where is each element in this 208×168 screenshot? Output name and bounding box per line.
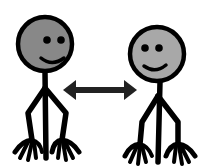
hand-icon [52, 140, 79, 160]
hand-icon [125, 144, 152, 164]
head-right [130, 27, 184, 81]
eye-icon [155, 44, 163, 52]
arm-left-outer [28, 88, 45, 140]
eye-icon [57, 36, 65, 44]
eye-icon [141, 44, 149, 52]
double-arrow-icon: interaction [63, 80, 137, 100]
arm-right-inner [140, 96, 158, 144]
pictogram: Two smiling stick figures facing each ot… [0, 0, 208, 168]
head-left [18, 17, 72, 71]
eye-icon [43, 36, 51, 44]
hand-icon [166, 144, 195, 164]
hand-icon [15, 140, 42, 160]
pictogram-canvas: Person 1 [0, 0, 208, 168]
body-left [45, 72, 46, 158]
person-right: Person 2 [125, 27, 195, 164]
